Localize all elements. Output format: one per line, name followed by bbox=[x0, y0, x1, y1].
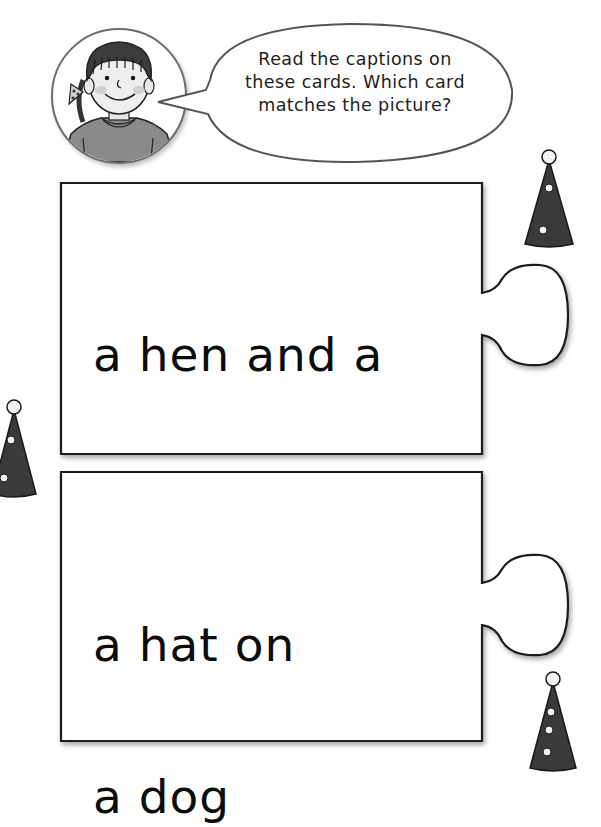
speech-line-1: Read the captions on bbox=[220, 48, 490, 71]
caption-line-1: a hen and a bbox=[93, 317, 383, 393]
card-caption: a hat on a dog bbox=[93, 531, 295, 827]
speech-bubble-text: Read the captions on these cards. Which … bbox=[220, 48, 490, 117]
caption-card-2[interactable]: a hat on a dog bbox=[0, 463, 601, 753]
caption-line-1: a hat on bbox=[93, 607, 295, 683]
caption-card-1[interactable]: a hen and a bug bbox=[0, 175, 601, 465]
speech-line-3: matches the picture? bbox=[220, 94, 490, 117]
caption-line-2: a dog bbox=[93, 759, 295, 827]
party-hat-icon bbox=[524, 668, 582, 776]
speech-line-2: these cards. Which card bbox=[220, 71, 490, 94]
speech-bubble: Read the captions on these cards. Which … bbox=[150, 18, 520, 168]
puzzle-card-shape bbox=[0, 463, 601, 753]
